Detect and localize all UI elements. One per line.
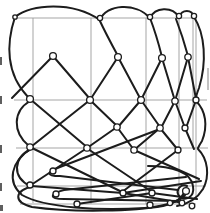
thread-loop [193, 97, 199, 103]
thread-loop [27, 144, 33, 150]
thread-path [175, 101, 185, 128]
thread-loop [179, 200, 185, 206]
thread-loop [175, 147, 181, 153]
thread-path [90, 100, 117, 126]
thread-path [118, 57, 141, 100]
thread-loop [87, 97, 94, 104]
page-edge-mark [0, 183, 2, 191]
thread-path [17, 101, 30, 146]
thread-loop [172, 98, 178, 104]
thread-loop [13, 15, 17, 19]
thread-path [53, 56, 90, 99]
thread-path [141, 100, 160, 127]
thread-layer [9, 7, 207, 211]
thread-path [87, 127, 117, 148]
thread-loop [183, 188, 190, 195]
thread-loop [27, 96, 34, 103]
thread-path [162, 58, 175, 101]
thread-path [186, 100, 196, 128]
thread-path [161, 101, 175, 128]
thread-path [175, 57, 188, 101]
thread-loop [27, 182, 33, 188]
thread-loop [149, 190, 155, 196]
thread-path [188, 57, 196, 99]
thread-loop [157, 125, 163, 131]
thread-loop [53, 191, 59, 197]
thread-loop [191, 13, 196, 18]
page-edge-mark [0, 145, 2, 153]
thread-path [176, 19, 188, 56]
thread-loop [159, 55, 166, 62]
woven-pattern-figure [0, 0, 210, 213]
thread-path [150, 18, 162, 57]
thread-path [160, 128, 178, 150]
woven-pattern-drawing [0, 0, 210, 213]
thread-loop [147, 14, 152, 19]
thread-loop [182, 125, 188, 131]
thread-path [141, 58, 162, 100]
thread-loop [50, 168, 56, 174]
thread-path [118, 100, 141, 127]
thread-path [12, 56, 53, 98]
thread-loop [167, 200, 172, 205]
page-edge-mark [0, 96, 2, 104]
thread-loop [131, 147, 137, 153]
thread-path [117, 127, 134, 150]
thread-loop [115, 54, 122, 61]
thread-loop [147, 202, 153, 208]
scan-smudge [207, 68, 209, 90]
thread-loop [189, 203, 195, 209]
thread-loop [97, 15, 102, 20]
thread-loop [120, 190, 126, 196]
thread-loop [114, 124, 120, 130]
page-edge-mark [0, 205, 3, 211]
page-edge-mark [0, 57, 2, 65]
thread-path [196, 101, 205, 148]
thread-loop [84, 145, 90, 151]
thread-path [90, 57, 118, 100]
thread-loop [50, 53, 57, 60]
thread-loop [138, 97, 145, 104]
thread-path [150, 9, 179, 18]
thread-loop [74, 201, 80, 207]
thread-loop [185, 54, 191, 60]
thread-path [194, 17, 204, 99]
thread-path [99, 19, 118, 56]
thread-loop [176, 13, 181, 18]
